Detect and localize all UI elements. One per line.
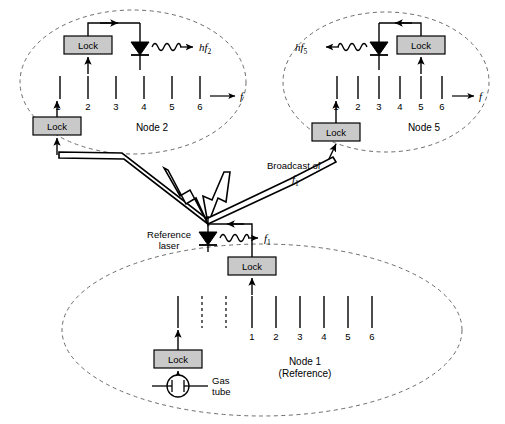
- node-2-feedback-wire: [88, 23, 140, 36]
- node-1-reference-lock-label: Lock: [242, 261, 262, 272]
- node-2-comb: 1 2 3 4 5 6: [55, 76, 202, 112]
- diagram-canvas: 1 2 3 4 5 6 f Lock: [0, 0, 505, 424]
- node-5-tick-4: 4: [397, 101, 402, 112]
- broadcast-lightning-left-icon: [59, 152, 208, 224]
- node-5-frequency-axis: f: [452, 90, 484, 102]
- node-5-lock-label: Lock: [411, 40, 431, 51]
- node-2-wavy-emission-icon: [152, 44, 193, 51]
- reference-laser-label-line2: laser: [159, 240, 180, 251]
- node-2-label: Node 2: [136, 122, 169, 133]
- node-1-comb: 1 2 3 4 5 6: [178, 296, 375, 342]
- node-5-input-lock-box[interactable]: Lock: [312, 123, 360, 141]
- reference-laser-label-line1: Reference: [147, 229, 191, 240]
- gas-tube-label-line1: Gas: [212, 375, 230, 386]
- node-2-tick-1: 1: [55, 101, 60, 112]
- node-1-label-line2: (Reference): [279, 368, 332, 379]
- node-5-feedback-wire: [379, 23, 421, 36]
- node-2-group: 1 2 3 4 5 6 f Lock: [20, 10, 246, 155]
- node-5-tick-2: 2: [355, 101, 360, 112]
- node-2-tick-5: 5: [169, 101, 174, 112]
- node-1-tick-1: 1: [249, 331, 254, 342]
- node-5-comb: 1 2 3 4 5 6: [333, 76, 444, 112]
- node-5-frequency-axis-label: f: [479, 90, 484, 102]
- node-2-emission-label: hf2: [199, 41, 212, 56]
- node-5-tick-5: 5: [418, 101, 423, 112]
- node-5-wavy-emission-icon: [326, 44, 367, 51]
- node-5-laser-diode-icon: [370, 36, 388, 70]
- node-5-tick-6: 6: [439, 101, 444, 112]
- node-5-label: Node 5: [408, 122, 441, 133]
- node-5-emission-label: hf5: [295, 41, 308, 56]
- node-1-group: Reference laser f1 Lock: [62, 216, 462, 416]
- gas-tube-label-line2: tube: [212, 386, 231, 397]
- node-2-input-lock-box[interactable]: Lock: [33, 117, 81, 135]
- node-1-gas-tube-icon: [152, 375, 208, 397]
- node-2-lock-box[interactable]: Lock: [64, 36, 112, 54]
- node-2-laser-diode-icon: [131, 36, 149, 70]
- node-2-input-lock-label: Lock: [47, 121, 67, 132]
- node-5-group: 1 2 3 4 5 6 f Lock: [283, 12, 489, 161]
- node-2-lock-label: Lock: [78, 40, 98, 51]
- node-1-tick-5: 5: [345, 331, 350, 342]
- node-5-input-lock-label: Lock: [326, 127, 346, 138]
- node-1-tick-6: 6: [369, 331, 374, 342]
- node-5-tick-3: 3: [376, 101, 381, 112]
- node-1-gas-lock-box[interactable]: Lock: [154, 350, 202, 368]
- node-2-tick-4: 4: [141, 101, 146, 112]
- node-1-label-line1: Node 1: [289, 356, 322, 367]
- node-1-emission-label: f1: [264, 232, 271, 247]
- network-diagram-svg: 1 2 3 4 5 6 f Lock: [0, 0, 505, 424]
- node-1-tick-2: 2: [273, 331, 278, 342]
- node-5-lock-box[interactable]: Lock: [397, 36, 445, 54]
- broadcast-group: Broadcast of f1: [59, 152, 336, 224]
- node-1-gas-lock-label: Lock: [168, 354, 188, 365]
- node-2-tick-2: 2: [85, 101, 90, 112]
- node-2-frequency-axis: f: [210, 90, 245, 102]
- node-2-tick-3: 3: [113, 101, 118, 112]
- broadcast-label-line1: Broadcast of: [267, 160, 321, 171]
- node-2-frequency-axis-label: f: [240, 90, 245, 102]
- node-1-tick-3: 3: [297, 331, 302, 342]
- node-2-tick-6: 6: [197, 101, 202, 112]
- node-1-tick-4: 4: [321, 331, 326, 342]
- node-1-reference-lock-box[interactable]: Lock: [228, 257, 276, 275]
